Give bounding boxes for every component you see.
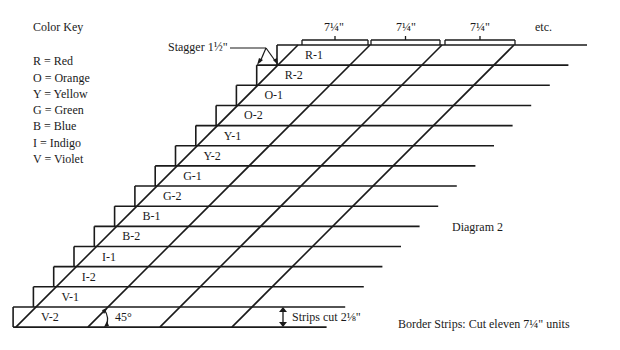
strip-label-b-1: B-1 [143, 209, 161, 224]
strip-label-v-2: V-2 [41, 310, 59, 325]
strip-label-o-2: O-2 [244, 108, 263, 123]
strip-width-arrowhead-down-icon [279, 322, 287, 327]
stagger-label: Stagger 1½" [168, 40, 228, 55]
unit-width-brackets [302, 36, 515, 45]
diagram-title: Diagram 2 [452, 220, 503, 235]
strip-label-r-1: R-1 [305, 48, 323, 63]
stagger-arrowhead-left-icon [257, 58, 263, 65]
strip-label-g-2: G-2 [163, 189, 182, 204]
unit-width-label-1: 7¼" [324, 20, 344, 35]
strip-label-y-1: Y-1 [224, 129, 241, 144]
angle-arrowhead-icon [104, 321, 109, 327]
color-key-title: Color Key [33, 19, 90, 35]
color-key-red: R = Red [33, 53, 90, 69]
border-strips-note: Border Strips: Cut eleven 7¼" units [398, 317, 570, 332]
strip-width-label: Strips cut 2⅛" [292, 310, 361, 325]
color-key-violet: V = Violet [33, 151, 90, 167]
strip-label-b-2: B-2 [122, 229, 140, 244]
color-key-blue: B = Blue [33, 118, 90, 134]
strip-label-y-2: Y-2 [204, 149, 221, 164]
strip-label-i-2: I-2 [82, 270, 96, 285]
color-key: Color Key R = Red O = Orange Y = Yellow … [33, 19, 90, 167]
strip-label-g-1: G-1 [183, 169, 202, 184]
strip-label-i-1: I-1 [102, 250, 116, 265]
strip-label-o-1: O-1 [264, 88, 283, 103]
unit-width-label-3: 7¼" [470, 20, 490, 35]
color-key-yellow: Y = Yellow [33, 86, 90, 102]
strip-label-r-2: R-2 [285, 68, 303, 83]
etc-label: etc. [535, 20, 552, 35]
unit-width-label-2: 7¼" [396, 20, 416, 35]
color-key-green: G = Green [33, 102, 90, 118]
strip-label-v-1: V-1 [61, 290, 79, 305]
color-key-indigo: I = Indigo [33, 135, 90, 151]
angle-label: 45° [115, 310, 132, 325]
color-key-orange: O = Orange [33, 70, 90, 86]
